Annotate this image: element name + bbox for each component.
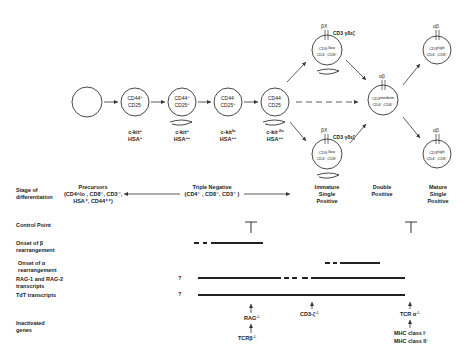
dn1-surface-markers: c-kit+ HSA+ — [123, 129, 147, 143]
sp-top-markers: CD3high CD4⁻,CD8⁺ — [422, 46, 452, 58]
triple-negative-label: Triple Negative (CD4⁻ , CD8⁻, CD3⁻ ) — [180, 184, 244, 198]
isp-top-markers: CD3-/low CD4⁻,CD8⁺ — [312, 46, 342, 58]
inactivated-cd3z: CD3-ζ-/- — [300, 311, 319, 318]
inactivated-rag: RAG-/- — [244, 315, 260, 322]
inactivated-tcra: TCR α-/- — [400, 311, 420, 318]
rag-unknown-mark: ? — [178, 275, 181, 282]
inactivated-mhc2: MHC class II- — [394, 338, 428, 345]
isp-top-complex: CD3 γδεζ — [333, 30, 355, 37]
dp-markers: CD3medium CD4⁺,CD8⁺ — [367, 96, 399, 108]
diagram-graphics — [0, 0, 474, 360]
row-label-rag: RAG-1 and RAG-2transcripts — [16, 276, 63, 290]
stage-mature-single-positive: MatureSinglePositive — [418, 184, 458, 205]
isp-bottom-receptor: βX — [321, 127, 327, 134]
isp-bottom-markers: CD3-/low CD4⁺,CD8⁻ — [312, 150, 342, 162]
isp-bottom-complex: CD3 γδεζ — [333, 134, 355, 141]
dn3-surface-markers: c-kitlo HSA++ — [216, 129, 240, 143]
dp-receptor: αβ — [379, 73, 385, 80]
sp-bottom-markers: CD3high CD4⁺,CD8⁻ — [422, 150, 452, 162]
inactivated-tcrb: TCRβ-/- — [238, 335, 256, 342]
tdt-unknown-mark: ? — [178, 291, 181, 298]
row-label-alpha: Onset of αrearrangement — [18, 260, 57, 274]
dn3-cell-markers: CD44- CD25+ — [216, 95, 240, 109]
sp-top-receptor: αβ — [433, 23, 439, 30]
row-label-beta: Onset of βrearrangement — [16, 240, 55, 254]
dn1-cell-markers: CD44+ CD25- — [123, 95, 147, 109]
stage-double-positive: DoublePositive — [362, 184, 402, 198]
dn2-cell-markers: CD44+ CD25+ — [170, 95, 194, 109]
isp-top-receptor: βX — [321, 23, 327, 30]
dn4-surface-markers: c-kit-/lo HSA++ — [263, 129, 287, 143]
stem-cell — [72, 87, 102, 117]
row-label-control-point: Control Point — [16, 222, 51, 229]
stage-immature-single-positive: ImmatureSinglePositive — [305, 184, 349, 205]
dn2-surface-markers: c-kit+ HSA++ — [170, 129, 194, 143]
row-label-inactivated: Inactivatedgenes — [16, 320, 45, 334]
dn4-cell-markers: CD44- CD25- — [263, 95, 287, 109]
row-label-stage: Stage ofdifferentiation — [16, 187, 53, 201]
sp-bottom-receptor: αβ — [433, 127, 439, 134]
precursors-label: Precursors (CD4^lo , CD8⁻, CD3⁻, HSA⁺, C… — [60, 184, 126, 205]
inactivated-mhc1: MHC class I- — [394, 330, 426, 337]
row-label-tdt: TdT transcripts — [16, 292, 56, 299]
